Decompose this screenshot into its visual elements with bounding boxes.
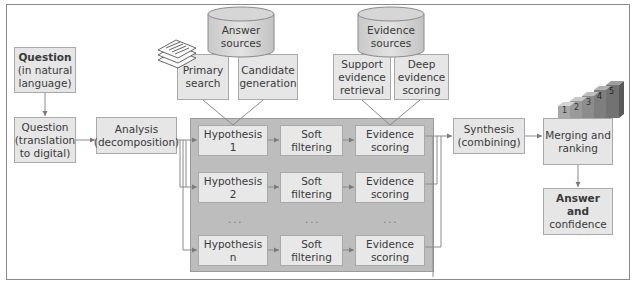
label: search bbox=[186, 77, 221, 89]
label: Answer bbox=[222, 24, 261, 36]
rank-step-3: 3 bbox=[586, 98, 591, 107]
label: Hypothesis 1 bbox=[199, 128, 267, 154]
label: scoring bbox=[402, 84, 440, 96]
soft-filtering-2-box: Softfiltering bbox=[280, 172, 343, 203]
hypothesis-2-box: Hypothesis 2 bbox=[198, 172, 268, 203]
label: (combining) bbox=[457, 136, 520, 148]
deep-evidence-box: Deep evidence scoring bbox=[394, 54, 449, 100]
label: Evidence bbox=[366, 128, 414, 140]
label: (translation bbox=[15, 134, 76, 146]
label: generation bbox=[239, 77, 296, 89]
label: to digital) bbox=[20, 147, 71, 159]
label: Evidence bbox=[366, 175, 414, 187]
label: Soft bbox=[301, 175, 322, 187]
ellipsis: ... bbox=[228, 214, 244, 225]
label: Merging and bbox=[545, 129, 611, 141]
rank-step-2: 2 bbox=[574, 103, 579, 112]
label: scoring bbox=[371, 188, 409, 200]
answer-sources-label: Answer sources bbox=[212, 24, 270, 50]
label: language) bbox=[19, 77, 72, 89]
label: Evidence bbox=[367, 24, 415, 36]
label: (decomposition) bbox=[94, 136, 179, 148]
question-digital-box: Question (translation to digital) bbox=[14, 117, 76, 163]
candidate-generation-box: Candidate generation bbox=[238, 54, 298, 100]
rank-step-1: 1 bbox=[562, 106, 567, 115]
analysis-box: Analysis (decomposition) bbox=[96, 117, 177, 154]
label: Support bbox=[341, 58, 383, 70]
question-natural-box: Question (in natural language) bbox=[14, 47, 76, 93]
label: filtering bbox=[291, 141, 332, 153]
primary-search-box: Primary search bbox=[177, 54, 229, 100]
label: Deep bbox=[408, 58, 436, 70]
label: filtering bbox=[291, 251, 332, 263]
merging-ranking-box: Merging and ranking bbox=[543, 118, 613, 165]
label: scoring bbox=[371, 141, 409, 153]
label: Question bbox=[22, 121, 69, 133]
label: Analysis bbox=[115, 123, 158, 135]
soft-filtering-n-box: Softfiltering bbox=[280, 235, 343, 266]
hypothesis-n-box: Hypothesis n bbox=[198, 235, 268, 266]
label: Evidence bbox=[366, 238, 414, 250]
label: ranking bbox=[558, 142, 598, 154]
label: Soft bbox=[301, 238, 322, 250]
label: sources bbox=[221, 37, 261, 49]
rank-step-4: 4 bbox=[597, 92, 602, 101]
label: scoring bbox=[371, 251, 409, 263]
hypothesis-1-box: Hypothesis 1 bbox=[198, 125, 268, 156]
label: Candidate bbox=[241, 64, 295, 76]
evidence-scoring-1-box: Evidencescoring bbox=[355, 125, 425, 156]
ellipsis: ... bbox=[305, 214, 321, 225]
label: sources bbox=[371, 37, 411, 49]
label: Synthesis bbox=[464, 123, 515, 135]
ellipsis: ... bbox=[383, 214, 399, 225]
evidence-sources-label: Evidence sources bbox=[362, 24, 420, 50]
label: Primary bbox=[183, 64, 224, 76]
label: evidence bbox=[338, 71, 386, 83]
label: Hypothesis 2 bbox=[199, 175, 267, 201]
synthesis-box: Synthesis (combining) bbox=[453, 118, 525, 154]
label: Question bbox=[18, 51, 71, 63]
label: evidence bbox=[398, 71, 446, 83]
label: (in natural bbox=[18, 64, 73, 76]
answer-confidence-box: Answer and confidence bbox=[543, 188, 613, 235]
soft-filtering-1-box: Softfiltering bbox=[280, 125, 343, 156]
label: confidence bbox=[549, 218, 606, 230]
evidence-scoring-n-box: Evidencescoring bbox=[355, 235, 425, 266]
label: Soft bbox=[301, 128, 322, 140]
label: Hypothesis n bbox=[199, 238, 267, 264]
label: retrieval bbox=[340, 84, 384, 96]
label: Answer and bbox=[556, 192, 600, 217]
evidence-scoring-2-box: Evidencescoring bbox=[355, 172, 425, 203]
rank-step-5: 5 bbox=[609, 87, 614, 96]
label: filtering bbox=[291, 188, 332, 200]
support-evidence-box: Support evidence retrieval bbox=[333, 54, 391, 100]
